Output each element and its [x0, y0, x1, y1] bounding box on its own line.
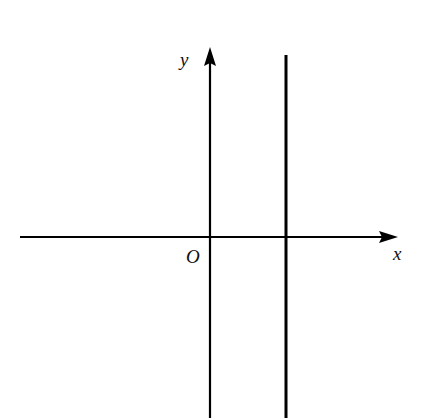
origin-label: O: [186, 246, 200, 267]
coordinate-diagram: y O x: [0, 0, 430, 418]
y-axis-label: y: [178, 49, 189, 70]
x-axis-label: x: [392, 243, 402, 264]
